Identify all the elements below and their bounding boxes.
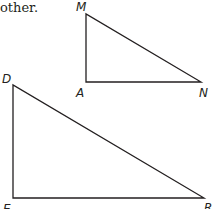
- vertex-label-r: R: [204, 201, 212, 209]
- vertex-label-e: E: [3, 202, 11, 209]
- vertex-label-m: M: [76, 0, 87, 14]
- vertex-label-a: A: [75, 86, 84, 100]
- triangle-der: D E R: [2, 72, 212, 209]
- triangle-man-outline: [86, 14, 201, 82]
- triangle-der-outline: [13, 85, 204, 198]
- vertex-label-n: N: [199, 86, 208, 100]
- vertex-label-d: D: [2, 72, 11, 86]
- similar-triangles-diagram: M A N D E R: [0, 0, 216, 209]
- triangle-man: M A N: [75, 0, 208, 100]
